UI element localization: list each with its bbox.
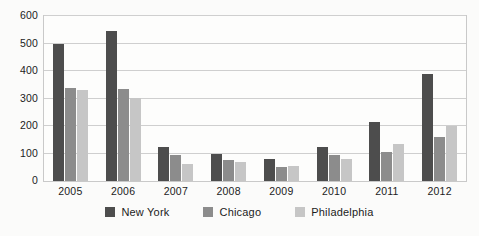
bar-group [44,16,97,181]
x-tick-label: 2011 [375,185,398,197]
x-axis: 20052006200720082009201020112012 [44,185,466,201]
x-tick-label: 2008 [217,185,241,197]
y-tick-label: 200 [20,119,38,131]
bar [223,160,234,181]
bar-group [150,16,203,181]
bar [130,98,141,181]
bar-group [202,16,255,181]
y-tick-label: 500 [20,37,38,49]
bar-group [308,16,361,181]
bar [118,89,129,181]
bar-group [413,16,466,181]
x-tick-label: 2009 [269,185,293,197]
bars-layer [44,16,466,181]
bar [422,74,433,181]
y-tick-label: 0 [32,174,38,186]
bar [341,159,352,181]
legend-swatch-icon [203,207,213,217]
legend-item: Chicago [203,206,261,218]
y-tick-label: 300 [20,92,38,104]
bar [182,164,193,181]
bar [264,159,275,181]
bar-group [255,16,308,181]
bar [77,90,88,181]
x-tick-label: 2006 [111,185,135,197]
bar [276,167,287,181]
y-tick-label: 100 [20,147,38,159]
bar [158,147,169,181]
legend: New YorkChicagoPhiladelphia [0,206,479,218]
bar-group [97,16,150,181]
y-tick-label: 600 [20,9,38,21]
bar [381,152,392,181]
bar [446,126,457,181]
bar [329,155,340,181]
bar [393,144,404,181]
x-tick-label: 2012 [428,185,452,197]
bar [106,31,117,181]
bar [288,166,299,181]
legend-swatch-icon [105,207,115,217]
legend-item: Philadelphia [295,206,373,218]
x-tick-label: 2010 [322,185,346,197]
legend-swatch-icon [295,207,305,217]
bar [317,147,328,181]
x-tick-label: 2005 [58,185,82,197]
bar-group [361,16,414,181]
bar [65,88,76,182]
legend-label: Chicago [219,206,261,218]
x-tick-label: 2007 [164,185,188,197]
bar [434,137,445,181]
legend-item: New York [105,206,169,218]
y-tick-label: 400 [20,64,38,76]
bar [369,122,380,181]
legend-label: New York [121,206,169,218]
bar [211,154,222,181]
legend-label: Philadelphia [311,206,373,218]
bar-chart: 0100200300400500600 20052006200720082009… [0,0,479,236]
bar [53,44,64,182]
y-axis: 0100200300400500600 [0,15,38,182]
bar [235,162,246,181]
bar [170,155,181,181]
